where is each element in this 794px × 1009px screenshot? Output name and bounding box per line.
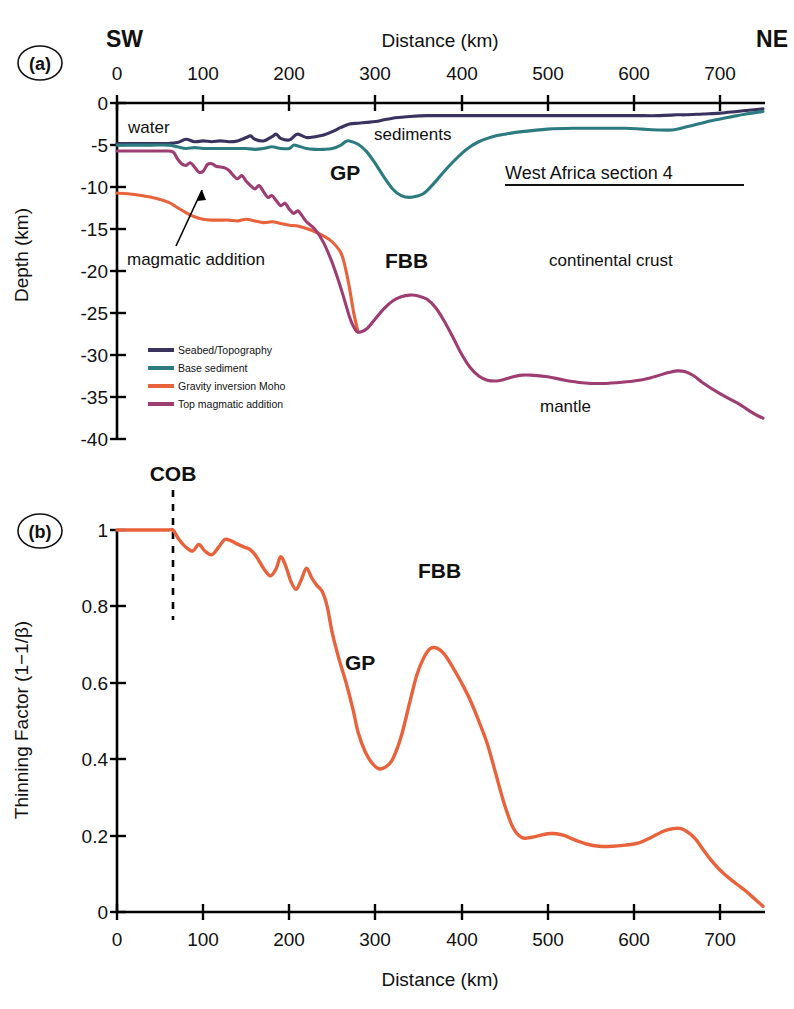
legend-label-base-sediment: Base sediment: [178, 362, 248, 374]
x-tick-label: 100: [187, 929, 219, 950]
curve-top-magmatic-addition: [117, 151, 763, 418]
figure-svg: SW NE Distance (km) (a) 0 100 200 300 40…: [0, 0, 794, 1009]
x-tick-label: 200: [273, 929, 305, 950]
x-tick-label: 300: [359, 929, 391, 950]
y-tick-label: 0.2: [82, 826, 108, 847]
legend-label-magmatic: Top magmatic addition: [178, 398, 283, 410]
section-title-text: West Africa section 4: [505, 163, 673, 183]
panel-a: SW NE Distance (km) (a) 0 100 200 300 40…: [11, 26, 788, 450]
y-tick-label: -5: [91, 135, 108, 156]
y-tick-label: -40: [81, 429, 108, 450]
x-tick-label: 0: [112, 929, 123, 950]
x-tick-label: 300: [359, 63, 391, 84]
y-tick-label: -10: [81, 177, 108, 198]
panel-a-tag-label: (a): [29, 54, 51, 74]
x-tick-label: 700: [704, 929, 736, 950]
y-tick-label: 0.6: [82, 673, 108, 694]
leader-arrowhead: [197, 190, 206, 201]
y-tick-label: 1: [97, 520, 108, 541]
legend-item: Top magmatic addition: [148, 398, 283, 410]
panel-a-y-axis-title: Depth (km): [11, 208, 32, 302]
section-title-group: West Africa section 4: [505, 163, 744, 185]
x-tick-label: 200: [273, 63, 305, 84]
x-tick-label: 400: [446, 929, 478, 950]
orientation-sw-label: SW: [106, 26, 143, 52]
y-tick-label: 0.8: [82, 596, 108, 617]
cob-marker: COB: [150, 462, 197, 620]
curve-thinning-factor: [117, 529, 763, 906]
annotation-sediments: sediments: [374, 125, 451, 144]
y-tick-label: 0: [97, 902, 108, 923]
panel-b-y-tick-labels: 0 0.2 0.4 0.6 0.8 1: [82, 520, 109, 923]
annotation-cob: COB: [150, 462, 197, 485]
legend-item: Gravity inversion Moho: [148, 380, 286, 392]
panel-a-x-axis-title: Distance (km): [381, 30, 498, 51]
y-tick-label: -20: [81, 261, 108, 282]
panel-b-x-tick-labels: 0 100 200 300 400 500 600 700: [112, 929, 736, 950]
y-tick-label: -35: [81, 387, 108, 408]
legend-item: Seabed/Topography: [148, 344, 273, 356]
annotation-gp-a: GP: [330, 161, 360, 184]
annotation-gp-b: GP: [345, 651, 375, 674]
x-tick-label: 400: [446, 63, 478, 84]
y-tick-label: -15: [81, 219, 108, 240]
panel-b-tag-label: (b): [29, 522, 52, 542]
legend-label-seabed: Seabed/Topography: [178, 344, 273, 356]
x-tick-label: 0: [112, 63, 123, 84]
orientation-ne-label: NE: [756, 26, 788, 52]
y-tick-label: -30: [81, 345, 108, 366]
y-tick-label: 0.4: [82, 749, 109, 770]
annotation-water: water: [127, 118, 170, 137]
x-tick-label: 600: [618, 63, 650, 84]
annotation-fbb-a: FBB: [385, 249, 428, 272]
x-tick-label: 100: [187, 63, 219, 84]
y-tick-label: 0: [97, 93, 108, 114]
panel-b-y-axis-title: Thinning Factor (1−1/β): [11, 621, 32, 819]
panel-b-curves: [117, 529, 763, 906]
panel-a-tag: (a): [18, 46, 62, 80]
x-tick-label: 700: [704, 63, 736, 84]
legend-item: Base sediment: [148, 362, 248, 374]
annotation-fbb-b: FBB: [418, 559, 461, 582]
x-tick-label: 500: [532, 63, 564, 84]
legend-label-moho: Gravity inversion Moho: [178, 380, 286, 392]
panel-b-tag: (b): [18, 514, 62, 548]
panel-a-x-tick-labels: 0 100 200 300 400 500 600 700: [112, 63, 736, 84]
annotation-continental-crust: continental crust: [549, 251, 673, 270]
y-tick-label: -25: [81, 303, 108, 324]
annotation-mantle: mantle: [540, 397, 591, 416]
x-tick-label: 500: [532, 929, 564, 950]
panel-b: (b) Thinning Factor (1−1/β) 0 0.2 0.4 0.…: [11, 462, 765, 990]
panel-b-x-axis-title: Distance (km): [381, 969, 498, 990]
annotation-magmatic-addition: magmatic addition: [127, 250, 265, 269]
panel-a-legend: Seabed/Topography Base sediment Gravity …: [148, 344, 286, 410]
x-tick-label: 600: [618, 929, 650, 950]
figure-root: SW NE Distance (km) (a) 0 100 200 300 40…: [0, 0, 794, 1009]
panel-a-y-tick-labels: 0 -5 -10 -15 -20 -25 -30 -35 -40: [81, 93, 108, 450]
